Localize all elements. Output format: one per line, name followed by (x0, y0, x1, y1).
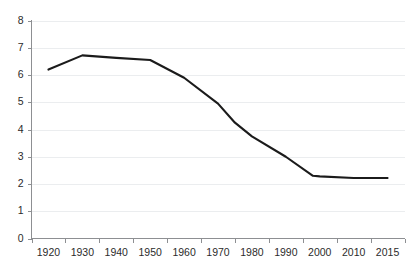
x-axis-label-1980: 1980 (240, 246, 264, 258)
chart-canvas: 012345678 192019301940195019601970198019… (0, 0, 419, 265)
y-axis-label-1: 1 (18, 204, 24, 216)
x-axis-label-2010: 2010 (342, 246, 366, 258)
x-axis-label-2000: 2000 (308, 246, 332, 258)
x-axis-label-1920: 1920 (37, 246, 61, 258)
x-axis-label-1970: 1970 (206, 246, 230, 258)
y-axis-tick-labels-group: 012345678 (18, 14, 24, 244)
y-axis-label-6: 6 (18, 68, 24, 80)
chart-background (0, 0, 419, 265)
y-axis-label-3: 3 (18, 150, 24, 162)
y-axis-label-7: 7 (18, 41, 24, 53)
y-axis-label-0: 0 (18, 232, 24, 244)
x-axis-label-1930: 1930 (71, 246, 95, 258)
x-axis-label-1940: 1940 (105, 246, 129, 258)
x-axis-tick-labels-group: 1920193019401950196019701980199020002010… (37, 246, 400, 258)
y-axis-label-4: 4 (18, 123, 24, 135)
y-axis-label-5: 5 (18, 95, 24, 107)
y-axis-label-2: 2 (18, 177, 24, 189)
x-axis-label-1950: 1950 (139, 246, 163, 258)
line-chart: 012345678 192019301940195019601970198019… (0, 0, 419, 265)
y-axis-label-8: 8 (18, 14, 24, 26)
x-axis-label-1960: 1960 (172, 246, 196, 258)
x-axis-label-1990: 1990 (274, 246, 298, 258)
x-axis-label-2015: 2015 (376, 246, 400, 258)
